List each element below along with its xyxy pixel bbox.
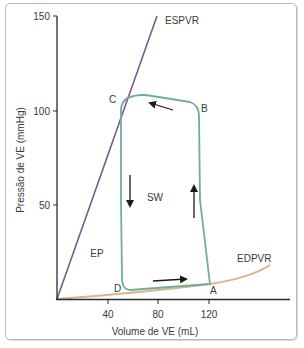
y-axis-title: Pressão de VE (mmHg) [15,107,26,213]
edpvr-label: EDPVR [237,253,271,264]
espvr-label: ESPVR [165,15,199,26]
y-tick-label-50: 50 [39,200,51,211]
arrow-left-icon [150,103,173,110]
espvr-line [57,16,157,299]
arrow-right-icon [153,279,186,281]
point-label-d: D [114,283,121,294]
x-axis-title: Volume de VE (mL) [112,326,199,337]
point-label-a: A [210,285,217,296]
point-label-b: B [201,103,208,114]
point-label-c: C [109,94,116,105]
ep-label: EP [90,248,104,259]
x-tick-label-120: 120 [201,309,218,320]
pv-loop-chart: 150 100 50 40 80 120 Volume de VE (mL) P… [0,0,304,348]
edpvr-curve [57,265,270,299]
sw-label: SW [147,192,164,203]
x-tick-label-40: 40 [102,309,114,320]
pv-loop [121,95,210,290]
y-tick-label-100: 100 [33,106,50,117]
x-tick-label-80: 80 [152,309,164,320]
y-tick-label-150: 150 [33,11,50,22]
